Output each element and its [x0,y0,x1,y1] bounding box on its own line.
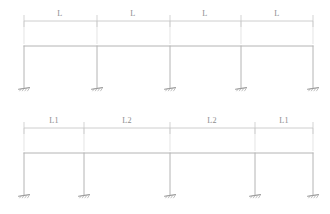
fixed-support [236,88,247,92]
equal-bay-frame [19,15,319,91]
dimension-labels-group: LLLLL1L2L2L1 [49,9,289,125]
support-hatch [242,88,244,91]
support-hatch [85,195,87,198]
bay-dimension-label: L1 [49,116,59,125]
support-hatch [27,88,29,91]
fixed-support [165,195,176,199]
support-hatch [314,88,316,91]
support-hatch [173,195,175,198]
panels-group [19,15,319,198]
fixed-support [308,195,319,199]
fixed-support [165,88,176,92]
fixed-support [308,88,319,92]
bay-dimension-label: L [202,9,207,18]
frame-diagrams-canvas: LLLLL1L2L2L1 [0,0,330,214]
fixed-support [19,195,30,199]
support-hatch [87,195,89,198]
support-hatch [171,88,173,91]
support-hatch [25,195,27,198]
drawing-sheet: LLLLL1L2L2L1 [0,0,330,214]
support-hatch [244,88,246,91]
fixed-support [250,195,261,199]
support-hatch [25,88,27,91]
support-hatch [27,195,29,198]
support-hatch [100,88,102,91]
unequal-bay-frame [19,122,319,198]
bay-dimension-label: L1 [279,116,289,125]
fixed-support [92,88,103,92]
support-hatch [173,88,175,91]
support-hatch [314,195,316,198]
fixed-support [19,88,30,92]
support-hatch [258,195,260,198]
fixed-support [79,195,90,199]
support-hatch [171,195,173,198]
support-hatch [98,88,100,91]
support-hatch [256,195,258,198]
bay-dimension-label: L [57,9,62,18]
bay-dimension-label: L [274,9,279,18]
bay-dimension-label: L2 [207,116,217,125]
support-hatch [316,88,318,91]
support-hatch [316,195,318,198]
bay-dimension-label: L2 [122,116,132,125]
bay-dimension-label: L [130,9,135,18]
